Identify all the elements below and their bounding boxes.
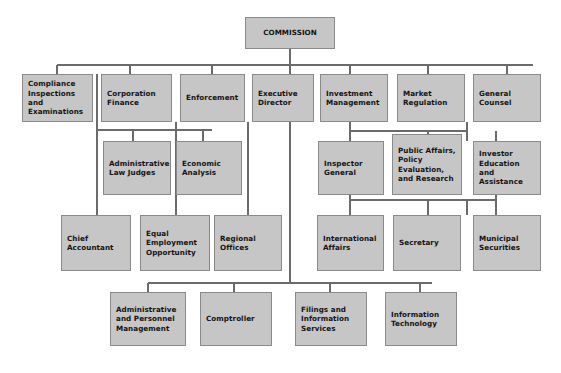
node-investment-management[interactable]: Investment Management	[320, 74, 388, 122]
node-label: COMMISSION	[246, 28, 334, 37]
node-label: Public Affairs, Policy Evaluation, and R…	[393, 146, 461, 184]
node-label: Chief Accountant	[62, 234, 130, 253]
node-information-technology[interactable]: Information Technology	[385, 292, 457, 346]
node-label: Administrative and Personnel Management	[111, 305, 185, 333]
node-executive-director[interactable]: Executive Director	[252, 74, 314, 122]
org-chart: COMMISSION Compliance Inspections and Ex…	[0, 0, 561, 373]
node-label: Regional Offices	[215, 234, 281, 253]
node-label: Investor Education and Assistance	[474, 149, 540, 187]
node-label: Economic Analysis	[177, 159, 241, 178]
node-compliance-inspections-and-examinations[interactable]: Compliance Inspections and Examinations	[22, 74, 93, 122]
node-label: Investment Management	[321, 89, 387, 108]
node-comptroller[interactable]: Comptroller	[200, 292, 272, 346]
node-label: Executive Director	[253, 89, 313, 108]
node-label: Inspector General	[319, 159, 383, 178]
node-label: Comptroller	[201, 314, 271, 323]
node-administrative-and-personnel-management[interactable]: Administrative and Personnel Management	[110, 292, 186, 346]
node-label: Filings and Information Services	[296, 305, 366, 333]
node-corporation-finance[interactable]: Corporation Finance	[101, 74, 172, 122]
node-label: General Counsel	[474, 89, 540, 108]
node-label: Administrative Law Judges	[104, 159, 175, 178]
node-label: Secretary	[394, 238, 460, 247]
node-inspector-general[interactable]: Inspector General	[318, 141, 384, 195]
node-label: Enforcement	[181, 93, 244, 102]
node-label: International Affairs	[318, 234, 383, 253]
node-label: Compliance Inspections and Examinations	[23, 79, 92, 117]
node-economic-analysis[interactable]: Economic Analysis	[176, 141, 242, 195]
node-label: Corporation Finance	[102, 89, 171, 108]
node-label: Market Regulation	[398, 89, 464, 108]
node-secretary[interactable]: Secretary	[393, 215, 461, 271]
node-label: Information Technology	[386, 310, 456, 329]
node-international-affairs[interactable]: International Affairs	[317, 215, 384, 271]
node-regional-offices[interactable]: Regional Offices	[214, 215, 282, 271]
node-municipal-securities[interactable]: Municipal Securities	[473, 215, 541, 271]
node-public-affairs-policy-evaluation-and-research[interactable]: Public Affairs, Policy Evaluation, and R…	[392, 134, 462, 195]
node-filings-and-information-services[interactable]: Filings and Information Services	[295, 292, 367, 346]
node-enforcement[interactable]: Enforcement	[180, 74, 245, 122]
node-administrative-law-judges[interactable]: Administrative Law Judges	[103, 141, 171, 195]
node-equal-employment-opportunity[interactable]: Equal Employment Opportunity	[140, 215, 210, 271]
node-chief-accountant[interactable]: Chief Accountant	[61, 215, 131, 271]
node-market-regulation[interactable]: Market Regulation	[397, 74, 465, 122]
node-investor-education-and-assistance[interactable]: Investor Education and Assistance	[473, 141, 541, 195]
node-label: Municipal Securities	[474, 234, 540, 253]
node-label: Equal Employment Opportunity	[141, 229, 209, 257]
node-commission[interactable]: COMMISSION	[245, 17, 335, 49]
node-general-counsel[interactable]: General Counsel	[473, 74, 541, 122]
